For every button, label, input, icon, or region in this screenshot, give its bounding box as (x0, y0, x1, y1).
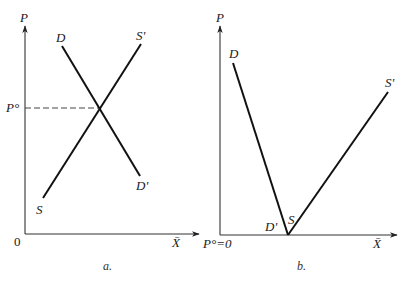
supply-end-label-b: S' (385, 75, 395, 90)
demand-start-label-a: D (55, 30, 66, 45)
supply-start-label-b: S (288, 212, 295, 227)
supply-curve-a (43, 44, 141, 198)
supply-start-label-a: S (36, 202, 43, 217)
supply-curve-b (288, 92, 388, 235)
panel-b: P D S' D' S P°=0 X̄ b. (202, 10, 397, 273)
caption-b: b. (297, 259, 306, 273)
panel-a: P P° 0 X̄ D S' S D' a. (5, 10, 199, 273)
price-axis-label-a: P (19, 10, 28, 25)
figure-svg: P P° 0 X̄ D S' S D' a. P D S' D' S P°=0 … (0, 0, 409, 287)
demand-end-label-b: D' (264, 219, 277, 234)
origin-label-a: 0 (14, 234, 21, 249)
supply-demand-figure: P P° 0 X̄ D S' S D' a. P D S' D' S P°=0 … (0, 0, 409, 287)
demand-start-label-b: D (228, 46, 239, 61)
quantity-axis-label-a: X̄ (171, 235, 181, 250)
origin-label-b: P°=0 (202, 236, 232, 251)
supply-end-label-a: S' (136, 28, 146, 43)
price-axis-label-b: P (215, 10, 224, 25)
demand-end-label-a: D' (135, 178, 148, 193)
demand-curve-b (233, 63, 288, 235)
p-star-label: P° (5, 100, 19, 115)
caption-a: a. (103, 259, 112, 273)
quantity-axis-label-b: X̄ (372, 236, 382, 251)
